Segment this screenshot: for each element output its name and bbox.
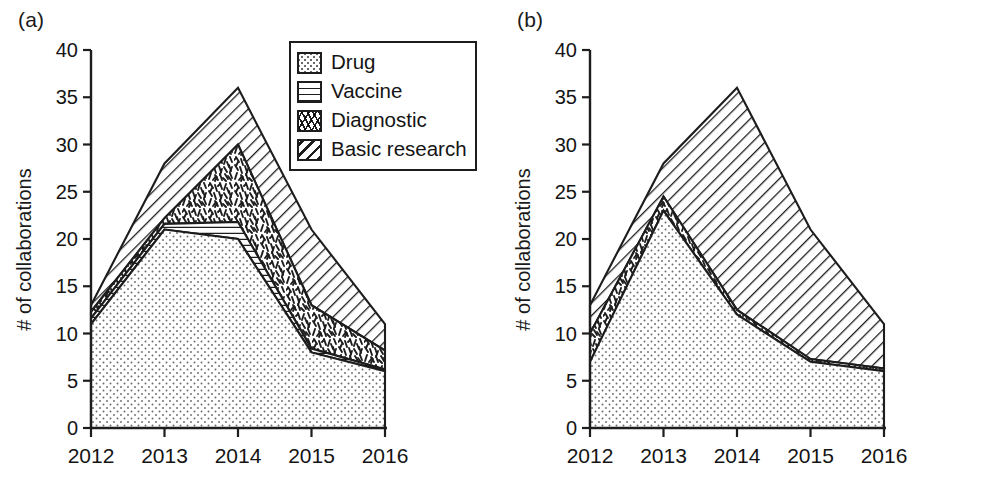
svg-text:2012: 2012 xyxy=(68,444,115,467)
svg-text:2015: 2015 xyxy=(787,444,834,467)
legend-item: Basic research xyxy=(297,135,467,164)
svg-text:5: 5 xyxy=(67,370,78,392)
svg-text:2013: 2013 xyxy=(640,444,687,467)
legend-item: Drug xyxy=(297,48,467,77)
svg-text:20: 20 xyxy=(56,228,78,250)
svg-text:2014: 2014 xyxy=(714,444,761,467)
svg-text:20: 20 xyxy=(555,228,577,250)
panel-b-plot: 051015202530354020122013201420152016 xyxy=(499,0,998,487)
svg-text:0: 0 xyxy=(566,417,577,439)
panel-a: (a) # of collaborations 0510152025303540… xyxy=(0,0,499,487)
legend-swatch-drug xyxy=(297,52,322,74)
legend-swatch-diagnostic xyxy=(297,110,322,132)
legend-label-vaccine: Vaccine xyxy=(331,81,402,102)
svg-text:15: 15 xyxy=(555,275,577,297)
svg-text:2016: 2016 xyxy=(362,444,409,467)
svg-text:35: 35 xyxy=(56,86,78,108)
legend-swatch-vaccine xyxy=(297,81,322,103)
svg-text:30: 30 xyxy=(56,134,78,156)
svg-text:2012: 2012 xyxy=(567,444,614,467)
legend-swatch-basic-research xyxy=(297,139,322,161)
svg-text:0: 0 xyxy=(67,417,78,439)
svg-text:25: 25 xyxy=(555,181,577,203)
svg-text:2015: 2015 xyxy=(288,444,335,467)
svg-text:2014: 2014 xyxy=(215,444,262,467)
svg-text:5: 5 xyxy=(566,370,577,392)
legend-item: Diagnostic xyxy=(297,106,467,135)
legend-label-drug: Drug xyxy=(331,52,375,73)
svg-text:2016: 2016 xyxy=(861,444,908,467)
svg-text:40: 40 xyxy=(56,39,78,61)
legend-label-diagnostic: Diagnostic xyxy=(331,110,427,131)
panel-a-legend: Drug Vaccine Diagnostic Basic research xyxy=(289,41,477,171)
legend-label-basic-research: Basic research xyxy=(331,139,467,160)
figure-container: (a) # of collaborations 0510152025303540… xyxy=(0,0,998,487)
svg-text:35: 35 xyxy=(555,86,577,108)
svg-text:2013: 2013 xyxy=(141,444,188,467)
svg-text:40: 40 xyxy=(555,39,577,61)
svg-text:25: 25 xyxy=(56,181,78,203)
svg-text:10: 10 xyxy=(555,323,577,345)
svg-text:30: 30 xyxy=(555,134,577,156)
legend-item: Vaccine xyxy=(297,77,467,106)
svg-text:15: 15 xyxy=(56,275,78,297)
panel-b: (b) # of collaborations 0510152025303540… xyxy=(499,0,998,487)
svg-text:10: 10 xyxy=(56,323,78,345)
